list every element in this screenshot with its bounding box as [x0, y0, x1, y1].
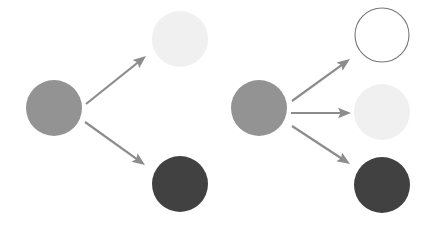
target-circle-dark: [152, 156, 208, 212]
target-circle-outline: [355, 8, 409, 62]
source-circle-gray: [26, 80, 82, 136]
arrow-to-dark-head: [131, 153, 145, 165]
arrow-to-dark-shaft: [292, 126, 342, 159]
diagram-svg: [0, 0, 439, 227]
target-circle-light: [354, 84, 410, 140]
diagram-canvas: [0, 0, 439, 227]
arrow-to-dark-head: [336, 153, 350, 164]
source-circle-gray: [231, 80, 287, 136]
arrow-to-outline-head: [336, 59, 350, 71]
arrow-to-dark-shaft: [85, 122, 137, 159]
target-circle-light: [152, 11, 208, 67]
target-circle-dark: [354, 157, 410, 213]
right-group: [231, 8, 410, 213]
left-group: [26, 11, 208, 212]
arrow-to-light-shaft: [86, 62, 138, 104]
arrow-to-outline-shaft: [292, 65, 342, 101]
